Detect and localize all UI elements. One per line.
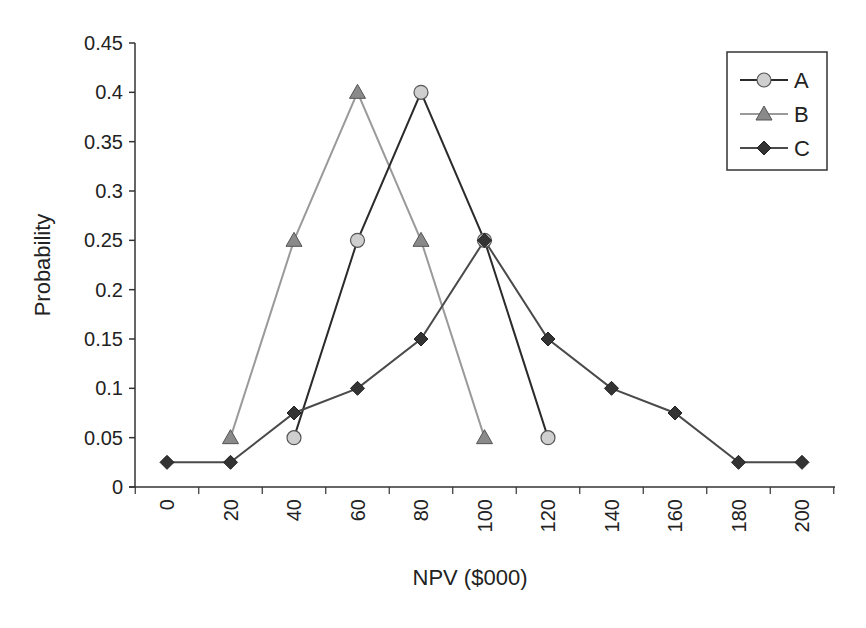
- x-tick-label: 80: [410, 499, 432, 521]
- series-line-a: [294, 92, 548, 437]
- data-point-diamond-icon: [160, 455, 174, 469]
- y-tick-label: 0: [112, 476, 123, 498]
- legend-box: [727, 52, 827, 170]
- line-chart: 00.050.10.150.20.250.30.350.40.450204060…: [0, 0, 866, 628]
- x-tick-label: 180: [728, 499, 750, 532]
- y-tick-label: 0.25: [84, 229, 123, 251]
- data-point-triangle-icon: [477, 430, 493, 444]
- data-point-triangle-icon: [350, 84, 366, 98]
- y-tick-label: 0.45: [84, 32, 123, 54]
- legend-label: A: [794, 68, 809, 93]
- x-axis-label: NPV ($000): [413, 565, 528, 590]
- data-point-triangle-icon: [223, 430, 239, 444]
- y-tick-label: 0.1: [95, 377, 123, 399]
- x-tick-label: 100: [474, 499, 496, 532]
- y-tick-label: 0.3: [95, 180, 123, 202]
- legend-circle-icon: [757, 73, 771, 87]
- data-point-triangle-icon: [286, 232, 302, 246]
- axes: 00.050.10.150.20.250.30.350.40.450204060…: [84, 32, 835, 532]
- x-tick-label: 120: [537, 499, 559, 532]
- data-point-diamond-icon: [795, 455, 809, 469]
- legend: ABC: [727, 52, 827, 170]
- series-lines: [167, 92, 802, 462]
- y-tick-label: 0.4: [95, 81, 123, 103]
- x-tick-label: 160: [664, 499, 686, 532]
- x-tick-label: 20: [220, 499, 242, 521]
- x-tick-label: 200: [791, 499, 813, 532]
- x-tick-label: 60: [347, 499, 369, 521]
- data-point-circle-icon: [287, 431, 301, 445]
- chart: 00.050.10.150.20.250.30.350.40.450204060…: [0, 0, 866, 628]
- legend-label: C: [794, 136, 810, 161]
- y-axis-label: Probability: [30, 214, 55, 317]
- data-point-triangle-icon: [413, 232, 429, 246]
- data-point-circle-icon: [541, 431, 555, 445]
- data-point-circle-icon: [351, 233, 365, 247]
- y-tick-label: 0.35: [84, 131, 123, 153]
- series-markers: [160, 84, 809, 469]
- y-tick-label: 0.15: [84, 328, 123, 350]
- x-tick-label: 40: [283, 499, 305, 521]
- series-markers-a: [287, 85, 555, 444]
- y-tick-label: 0.05: [84, 427, 123, 449]
- x-tick-label: 0: [156, 499, 178, 510]
- legend-label: B: [794, 102, 809, 127]
- x-tick-label: 140: [601, 499, 623, 532]
- data-point-circle-icon: [414, 85, 428, 99]
- y-tick-label: 0.2: [95, 279, 123, 301]
